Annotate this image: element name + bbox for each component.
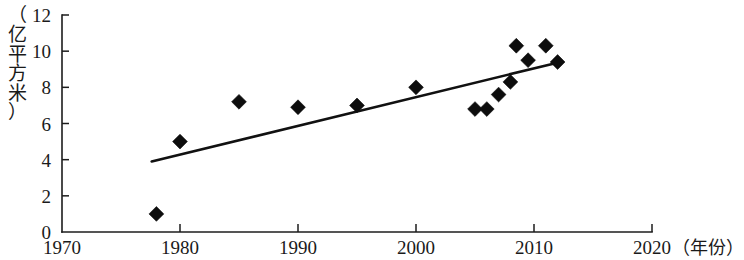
data-point-marker [232, 94, 247, 109]
y-tick-label: 8 [42, 77, 52, 98]
data-point-marker [521, 53, 536, 68]
x-axis-ticks: 197019801990200020102020 [43, 224, 671, 258]
data-point-marker [149, 207, 164, 222]
y-tick-label: 2 [42, 186, 52, 207]
x-tick-label: 2010 [515, 237, 553, 258]
data-point-marker [173, 134, 188, 149]
chart-figure: （ 亿 平 方 米 ） （年份） 024681012 1970198019902… [0, 0, 744, 260]
data-point-marker [538, 38, 553, 53]
data-point-marker [509, 38, 524, 53]
x-tick-label: 1990 [279, 237, 317, 258]
plot-area: 024681012 197019801990200020102020 [0, 0, 744, 260]
trend-line-group [152, 63, 557, 162]
data-point-marker [479, 102, 494, 117]
data-point-marker [291, 100, 306, 115]
data-point-markers [149, 38, 565, 221]
y-tick-label: 4 [42, 150, 52, 171]
x-tick-label: 1970 [43, 237, 81, 258]
data-point-marker [503, 75, 518, 90]
data-point-marker [491, 87, 506, 102]
data-point-marker [550, 55, 565, 70]
data-point-marker [409, 80, 424, 95]
y-axis-ticks: 024681012 [32, 5, 69, 243]
x-tick-label: 2020 [633, 237, 671, 258]
y-tick-label: 12 [32, 5, 51, 26]
trend-line [152, 63, 557, 162]
x-tick-label: 1980 [161, 237, 199, 258]
axes [62, 15, 652, 232]
y-tick-label: 6 [42, 114, 52, 135]
y-tick-label: 10 [32, 41, 51, 62]
x-tick-label: 2000 [397, 237, 435, 258]
